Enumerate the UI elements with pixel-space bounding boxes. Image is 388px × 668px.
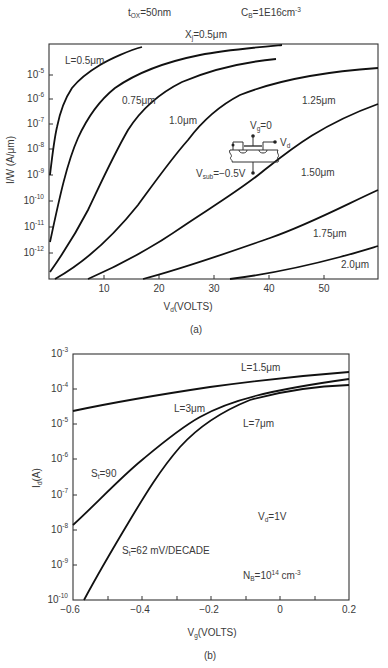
caption-b: (b): [204, 650, 216, 661]
label-l-2.0: 2.0μm: [341, 259, 369, 270]
label-l-3: L=3μm: [174, 403, 205, 414]
plot-a-frame: [49, 44, 378, 279]
ytick-a-5: 10-9: [27, 167, 44, 180]
ytick-b-7: 10-9: [51, 557, 68, 570]
transistor-inset: Vg=0 Vd Vsub=−0.5V: [196, 120, 291, 180]
caption-a: (a): [190, 324, 202, 335]
x-axis-b: −0.6 −0.4 −0.2 0 0.2: [60, 596, 356, 615]
label-l-1.25: 1.25μm: [302, 95, 336, 106]
curves-b: [73, 372, 349, 600]
ytick-b-2: 10-4: [51, 381, 68, 394]
xtick-b-neg0.6: −0.6: [60, 604, 80, 615]
cb-param: CB=1E16cm-3: [241, 6, 301, 19]
inset-vg-label: Vg=0: [250, 120, 272, 133]
curves-a: [50, 45, 378, 279]
xtick-a-40: 40: [263, 283, 275, 294]
ytick-b-4: 10-6: [51, 451, 68, 464]
ytick-b-5: 10-7: [51, 487, 68, 500]
curve-l-1.5: [73, 372, 349, 411]
panel-b: 10-3 10-4 10-5 10-6 10-7 10-8 10-9 10-10…: [31, 346, 356, 661]
ytick-b-6: 10-8: [51, 522, 68, 535]
label-l-1.0: 1.0μm: [169, 115, 197, 126]
curve-l-3: [73, 379, 349, 525]
ytick-a-4: 10-8: [27, 141, 44, 154]
annotation-st-62: St=62 mV/DECADE: [122, 545, 210, 557]
annotation-st-90: St=90: [91, 468, 117, 480]
curve-l-1.50: [88, 104, 378, 279]
label-l-7: L=7μm: [243, 418, 274, 429]
label-l-1.75: 1.75μm: [313, 228, 347, 239]
ytick-a-2: 10-6: [27, 91, 44, 104]
panel-a: tOX=50nm CB=1E16cm-3 Xj=0.5μm 10-5 10-6 …: [5, 6, 378, 335]
xtick-a-10: 10: [98, 283, 110, 294]
xtick-b-neg0.2: −0.2: [199, 604, 219, 615]
figure-canvas: tOX=50nm CB=1E16cm-3 Xj=0.5μm 10-5 10-6 …: [0, 0, 388, 668]
inset-vd-label: Vd: [280, 137, 291, 149]
curve-l-0.5: [50, 47, 142, 175]
xtick-b-0.2: 0.2: [342, 604, 356, 615]
ytick-b-1: 10-3: [51, 346, 68, 359]
xtick-b-neg0.4: −0.4: [130, 604, 150, 615]
ytick-b-3: 10-5: [51, 416, 68, 429]
x-axis-a: 10 20 30 40 50: [98, 275, 330, 294]
ytick-a-8: 10-12: [23, 245, 44, 258]
y-axis-b-label: Id(A): [31, 468, 43, 488]
label-l-0.5: L=0.5μm: [65, 55, 104, 66]
inset-vsub-label: Vsub=−0.5V: [196, 168, 246, 180]
ytick-a-7: 10-11: [24, 219, 44, 232]
annotation-nb: NB=1014 cm-3: [243, 569, 301, 582]
y-axis-a-label: I/W (A/μm): [5, 136, 16, 184]
ytick-a-6: 10-10: [23, 193, 44, 206]
xtick-a-30: 30: [208, 283, 220, 294]
label-l-0.75: 0.75μm: [122, 95, 156, 106]
tox-param: tOX=50nm: [128, 7, 171, 19]
curve-l-7: [84, 385, 349, 600]
xtick-a-50: 50: [318, 283, 330, 294]
x-axis-b-label: Vg(VOLTS): [187, 627, 236, 640]
xtick-b-0: 0: [277, 604, 283, 615]
xtick-a-20: 20: [153, 283, 165, 294]
label-l-1.50: 1.50μm: [301, 167, 335, 178]
ytick-a-1: 10-5: [27, 67, 44, 80]
x-axis-a-label: Vd(VOLTS): [163, 301, 212, 313]
annotation-vd: Vd=1V: [258, 511, 287, 523]
ytick-a-3: 10-7: [27, 116, 44, 129]
xj-param: Xj=0.5μm: [185, 29, 227, 42]
label-l-1.5: L=1.5μm: [241, 362, 280, 373]
